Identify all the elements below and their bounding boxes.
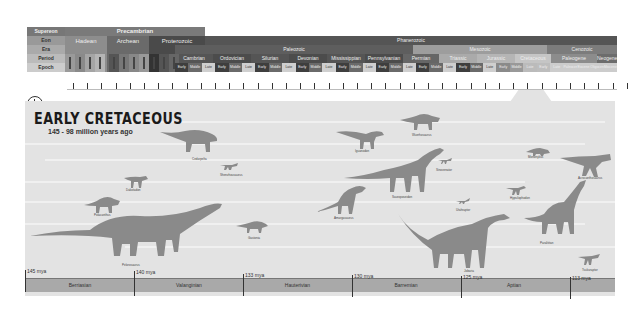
precambrian-period-cell[interactable] [65,54,75,72]
epoch-cell[interactable]: Early [175,63,188,72]
dinosaur-shenzhousaurus-icon[interactable] [220,162,238,170]
period-ordovician[interactable]: Ordovician [213,54,251,63]
period-cambrian[interactable]: Cambrian [175,54,213,63]
precambrian-period-cell[interactable] [109,54,119,72]
dinosaur-utahraptor-icon[interactable] [456,198,470,204]
epoch-cell[interactable]: Early [456,63,469,72]
epoch-cell[interactable]: Early [416,63,429,72]
boundary-marker [25,270,26,292]
epoch-cell[interactable]: Late [322,63,335,72]
era-mesozoic[interactable]: Mesozoic [413,45,547,54]
era-paleozoic[interactable]: Paleozoic [175,45,413,54]
epoch-cell[interactable]: Early [296,63,309,72]
epoch-cell[interactable]: Early [255,63,268,72]
dinosaur-acrocanthosaurus-icon[interactable] [560,152,611,178]
epoch-cell[interactable]: Late [403,63,416,72]
tick-mark [215,83,216,89]
epoch-cell[interactable]: Late [443,63,456,72]
epoch-cell[interactable]: Middle [309,63,322,72]
precambrian-period-cell[interactable] [95,54,105,72]
epoch-cell[interactable]: Middle [188,63,201,72]
epoch-cell[interactable]: Early [376,63,389,72]
epoch-cell[interactable]: Early [215,63,228,72]
period-marker [133,57,135,69]
epoch-cell[interactable]: Late [363,63,376,72]
epoch-cell[interactable]: Middle [229,63,242,72]
row-label-period: Period [27,54,65,63]
boundary-label: 133 mya [245,272,264,278]
period-jurassic[interactable]: Jurassic [477,54,515,63]
tick-mark [584,83,585,89]
dinosaur-pelorosaurus-icon[interactable] [30,200,225,260]
period-marker [153,57,155,69]
epoch-cell[interactable]: Middle [429,63,442,72]
precambrian-period-cell[interactable] [119,54,129,72]
epoch-cell[interactable]: Middle [510,63,523,72]
tick-mark [542,83,543,89]
dinosaur-paralititan-icon[interactable] [524,180,588,240]
period-neogene[interactable]: Neogene [597,54,617,63]
period-devonian[interactable]: Devonian [289,54,327,63]
dinosaur-sinovenator-icon[interactable] [438,158,452,164]
epoch-cell[interactable]: Eocene [577,63,590,72]
dinosaur-gastonia-icon[interactable] [236,220,268,234]
tick-mark [229,83,230,89]
tick-mark [73,83,74,89]
dinosaur-label: Amargasaurus [334,216,354,220]
tick-mark [343,83,344,89]
epoch-cell[interactable]: Late [282,63,295,72]
period-pennsylvanian[interactable]: Pennsylvanian [365,54,403,63]
dinosaur-sauroposeidon-icon[interactable] [344,146,446,194]
precambrian-period-cell[interactable] [139,54,149,72]
dinosaur-label: Tsukuraptor [582,268,598,272]
epoch-cell[interactable]: Middle [389,63,402,72]
stage-berriasian[interactable]: Berriasian [25,279,135,292]
eon-phanerozoic[interactable]: Phanerozoic [205,36,617,45]
era-cenozoic[interactable]: Cenozoic [547,45,617,54]
epoch-cell[interactable]: Early [496,63,509,72]
dinosaur-label: Wuerhosaurus [412,133,431,137]
epoch-cell[interactable]: Late [550,63,563,72]
dinosaur-hypsilophodon-icon[interactable] [506,184,526,196]
period-permian[interactable]: Permian [403,54,439,63]
epoch-cell[interactable]: Late [483,63,496,72]
dinosaur-polacanthus-icon[interactable] [84,195,122,215]
epoch-cell[interactable]: Middle [349,63,362,72]
precambrian-period-cell[interactable] [75,54,85,72]
precambrian-period-cell[interactable] [85,54,95,72]
stage-valanginian[interactable]: Valanginian [135,279,243,292]
dinosaur-tsukuraptor-icon[interactable] [578,254,600,266]
precambrian-period-cell[interactable] [159,54,169,72]
epoch-cell[interactable]: Paleocene [563,63,576,72]
period-silurian[interactable]: Silurian [251,54,289,63]
row-label-era: Era [27,45,65,54]
period-cretaceous[interactable]: Cretaceous [515,54,551,63]
stage-hauterivian[interactable]: Hauterivian [243,279,352,292]
period-marker [79,57,81,69]
epoch-cell[interactable]: Miocene [604,63,617,72]
stage-aptian[interactable]: Aptian [460,279,568,292]
period-mississippian[interactable]: Mississippian [327,54,365,63]
stage-barremian[interactable]: Barremian [352,279,460,292]
tick-mark [201,83,202,89]
period-paleogene[interactable]: Paleogene [551,54,597,63]
epoch-cell[interactable]: Early [336,63,349,72]
epoch-cell[interactable]: Middle [269,63,282,72]
epoch-cell[interactable]: Oligocene [590,63,603,72]
boundary-marker [570,277,571,299]
dinosaur-cedarpelta-icon[interactable] [160,128,220,156]
tick-mark [101,83,102,89]
epoch-cell[interactable]: Late [242,63,255,72]
epoch-cell[interactable]: Early [537,63,550,72]
dinosaur-wuerhosaurus-icon[interactable] [400,112,442,132]
period-triassic[interactable]: Triassic [439,54,477,63]
precambrian-period-cell[interactable] [129,54,139,72]
dinosaur-jobaria-icon[interactable] [398,210,518,270]
dinosaur-label: Cedarpelta [192,157,207,161]
tick-mark [172,83,173,89]
epoch-cell[interactable]: Middle [470,63,483,72]
epoch-cell[interactable]: Late [523,63,536,72]
dinosaur-label: Sauroposeidon [392,195,412,199]
precambrian-period-cell[interactable] [149,54,159,72]
epoch-cell[interactable]: Late [202,63,215,72]
